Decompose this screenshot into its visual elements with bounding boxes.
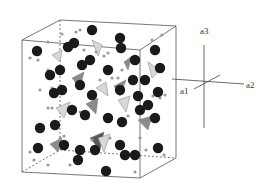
small-atom xyxy=(78,28,81,31)
large-atom xyxy=(90,145,100,155)
large-atom xyxy=(153,143,163,153)
large-atom xyxy=(33,143,43,153)
small-atom xyxy=(74,30,77,33)
large-atom xyxy=(55,65,65,75)
large-atom xyxy=(103,113,113,123)
small-atom xyxy=(90,138,93,141)
small-atom xyxy=(126,114,129,117)
small-atom xyxy=(138,136,141,139)
large-atom xyxy=(140,75,150,85)
small-atom xyxy=(68,163,71,166)
large-atom xyxy=(117,117,127,127)
tetrahedron xyxy=(96,82,108,96)
large-atom xyxy=(115,140,125,150)
large-atom xyxy=(115,33,125,43)
small-atom xyxy=(162,153,165,156)
large-atom xyxy=(150,113,160,123)
small-atom xyxy=(160,33,163,36)
small-atom xyxy=(116,76,119,79)
large-atom xyxy=(115,85,125,95)
small-atom xyxy=(46,163,49,166)
large-atom xyxy=(103,65,113,75)
a1-label: a1 xyxy=(180,86,189,96)
large-atom xyxy=(75,145,85,155)
tetrahedron xyxy=(92,40,102,56)
small-atom xyxy=(32,158,35,161)
large-atom xyxy=(116,43,126,53)
large-atom xyxy=(130,55,140,65)
large-atom xyxy=(69,38,79,48)
small-atom xyxy=(60,32,63,35)
small-atom xyxy=(102,54,105,57)
small-atom xyxy=(163,93,166,96)
small-atom xyxy=(28,150,31,153)
small-atom xyxy=(58,136,61,139)
large-atom xyxy=(153,87,163,97)
large-atom xyxy=(57,85,67,95)
small-atom xyxy=(133,170,136,173)
large-atom xyxy=(80,110,90,120)
small-atom xyxy=(38,88,41,91)
large-atom xyxy=(75,80,85,90)
small-atom xyxy=(150,38,153,41)
large-atom xyxy=(50,120,60,130)
small-atom xyxy=(28,56,31,59)
large-atom xyxy=(35,123,45,133)
large-atom xyxy=(120,150,130,160)
small-atom xyxy=(144,148,147,151)
small-atom xyxy=(46,40,49,43)
large-atom xyxy=(101,166,111,176)
large-atom xyxy=(45,70,55,80)
tetrahedron xyxy=(52,50,62,62)
small-atom xyxy=(120,68,123,71)
small-atom xyxy=(106,51,109,54)
large-atom xyxy=(133,91,143,101)
large-atom xyxy=(59,140,69,150)
small-atom xyxy=(82,48,85,51)
small-atom xyxy=(108,136,111,139)
tetrahedron xyxy=(118,96,130,112)
small-atom xyxy=(110,76,113,79)
large-atom xyxy=(87,25,97,35)
large-atom xyxy=(135,105,145,115)
large-atom xyxy=(150,45,160,55)
small-atom xyxy=(98,78,101,81)
small-atom xyxy=(62,134,65,137)
a2-label: a2 xyxy=(246,80,255,90)
a3-label: a3 xyxy=(200,26,209,36)
small-atom xyxy=(36,58,39,61)
crystal-structure-diagram: a3 a2 a1 xyxy=(0,0,270,193)
large-atom xyxy=(85,55,95,65)
large-atom xyxy=(32,46,42,56)
small-atom xyxy=(50,106,53,109)
small-atom xyxy=(46,106,49,109)
large-atom xyxy=(128,75,138,85)
large-atom xyxy=(155,63,165,73)
large-atom xyxy=(67,105,77,115)
large-atom xyxy=(130,150,140,160)
large-atom xyxy=(73,155,83,165)
small-atom xyxy=(94,50,97,53)
large-atom xyxy=(87,90,97,100)
